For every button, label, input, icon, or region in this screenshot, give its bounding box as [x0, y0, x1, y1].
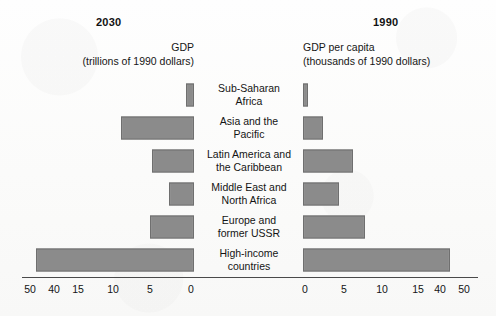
chart-figure: 2030 1990 GDP (trillions of 1990 dollars… [0, 0, 496, 316]
bar-gdp [150, 215, 194, 238]
chart-plot-area: Sub-SaharanAfricaAsia and thePacificLati… [0, 78, 496, 276]
category-label-line2: countries [196, 260, 302, 273]
axis-tick-left: 50 [24, 283, 36, 295]
right-column-caption: GDP per capita (thousands of 1990 dollar… [303, 40, 483, 68]
left-column-caption: GDP (trillions of 1990 dollars) [18, 40, 194, 68]
chart-row: Europe andformer USSR [0, 210, 496, 243]
category-label-line2: Pacific [196, 128, 302, 141]
right-column-title: GDP per capita [303, 40, 483, 54]
bar-gdp [169, 182, 194, 205]
axis-tick-left: 15 [72, 283, 84, 295]
left-column-title: GDP [18, 40, 194, 54]
chart-row: Asia and thePacific [0, 111, 496, 144]
category-label: Europe andformer USSR [196, 214, 302, 240]
axis-tick-right: 5 [341, 283, 347, 295]
chart-row: High-incomecountries [0, 243, 496, 276]
category-label-line1: Latin America and [196, 148, 302, 161]
category-label-line1: Europe and [196, 214, 302, 227]
chart-row: Middle East andNorth Africa [0, 177, 496, 210]
left-column-year: 2030 [96, 16, 121, 28]
category-label-line2: the Caribbean [196, 161, 302, 174]
axis-tick-left: 0 [188, 283, 194, 295]
bar-gdp [121, 116, 194, 139]
chart-row: Latin America andthe Caribbean [0, 144, 496, 177]
bar-gdp-per-capita [303, 149, 353, 172]
chart-row: Sub-SaharanAfrica [0, 78, 496, 111]
category-label-line1: Sub-Saharan [196, 82, 302, 95]
category-label: Asia and thePacific [196, 115, 302, 141]
left-column-units: (trillions of 1990 dollars) [18, 54, 194, 68]
bar-gdp [152, 149, 194, 172]
axis-tick-right: 50 [458, 283, 470, 295]
bar-gdp-per-capita [303, 248, 450, 271]
bar-gdp-per-capita [303, 215, 365, 238]
category-label-line2: Africa [196, 95, 302, 108]
category-label-line2: former USSR [196, 227, 302, 240]
category-label-line1: High-income [196, 247, 302, 260]
bar-gdp [36, 248, 194, 271]
axis-tick-right: 10 [376, 283, 388, 295]
axis-tick-right: 40 [434, 283, 446, 295]
axis-tick-right: 15 [412, 283, 424, 295]
right-column-units: (thousands of 1990 dollars) [303, 54, 483, 68]
bar-gdp-per-capita [303, 182, 339, 205]
category-label: Middle East andNorth Africa [196, 181, 302, 207]
bar-gdp-per-capita [303, 116, 323, 139]
category-label-line1: Asia and the [196, 115, 302, 128]
axis-tick-left: 5 [147, 283, 153, 295]
axis-tick-right: 0 [302, 283, 308, 295]
category-label: Sub-SaharanAfrica [196, 82, 302, 108]
right-column-year: 1990 [373, 16, 398, 28]
category-label: High-incomecountries [196, 247, 302, 273]
axis-tick-left: 10 [107, 283, 119, 295]
bar-gdp-per-capita [303, 83, 308, 106]
category-label-line2: North Africa [196, 194, 302, 207]
bar-gdp [186, 83, 194, 106]
category-label-line1: Middle East and [196, 181, 302, 194]
axis-tick-left: 40 [48, 283, 60, 295]
axis-baseline [22, 277, 478, 278]
category-label: Latin America andthe Caribbean [196, 148, 302, 174]
